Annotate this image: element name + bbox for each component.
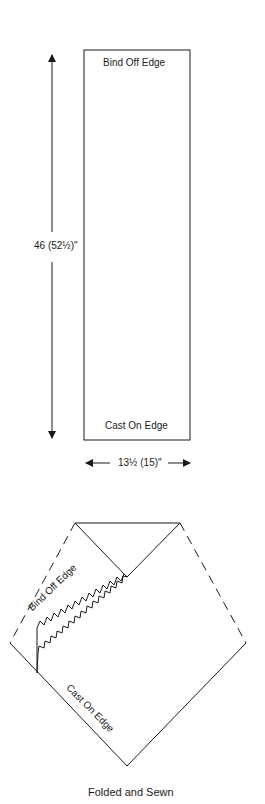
width-dimension-label: 13½ (15)" (118, 457, 162, 468)
schematic-rectangle (84, 50, 190, 440)
length-dimension-label: 46 (52½)" (34, 240, 78, 251)
diagram-canvas (0, 0, 265, 804)
schematic-top-label: Bind Off Edge (103, 57, 165, 68)
schematic-bottom-label: Cast On Edge (105, 420, 168, 431)
folded-caption: Folded and Sewn (88, 786, 174, 798)
folded-diagram (10, 523, 246, 766)
